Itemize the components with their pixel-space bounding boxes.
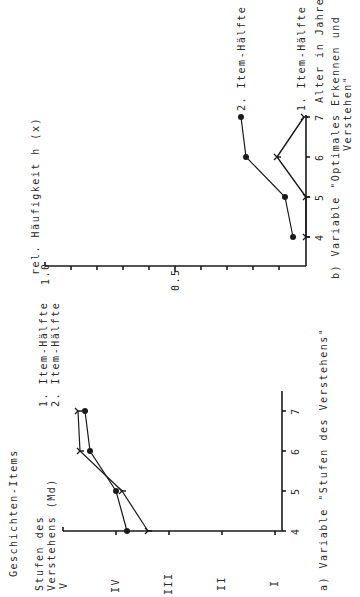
chart-a-axes	[63, 391, 286, 535]
chart-b-series2-label: 2. Item-Hälfte	[236, 6, 247, 111]
chart-b-xtick-7: 7	[314, 113, 325, 121]
chart-b-series2-line	[241, 117, 293, 237]
chart-b-xtick-4: 4	[314, 233, 325, 241]
chart-b-series1-label: 1. Item-Hälfte	[296, 6, 307, 111]
chart-a-series1-line	[78, 411, 148, 531]
chart-a-series2-line	[85, 411, 127, 531]
chart-b-xtick-5: 5	[314, 193, 325, 201]
chart-b-xtick-6: 6	[314, 153, 325, 161]
chart-b-axes	[45, 115, 310, 272]
chart-b-series1-line	[277, 117, 306, 237]
chart-b-ytick-1-0: 1.0	[40, 262, 51, 285]
chart-b-xlabel: Alter in Jahren	[314, 0, 325, 103]
chart-b-ytick-0-5: 0.5	[170, 268, 181, 291]
chart-b-series2-markers	[238, 114, 296, 240]
chart-b-caption-line2: Verstehen"	[342, 76, 353, 151]
chart-b-ylabel: rel. Häufigkeit h (x)	[30, 117, 41, 275]
rotated-figure-page: Geschichten-Items Stufen des Verstehens …	[0, 0, 360, 597]
chart-b-caption-line1: b) Variable "Optimales Erkennen und	[330, 16, 341, 279]
